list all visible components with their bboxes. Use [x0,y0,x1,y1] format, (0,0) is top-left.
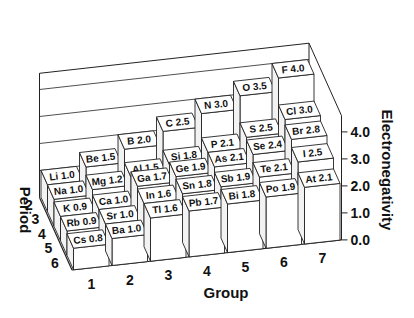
bar-tl: Tl 1.6 [144,200,186,262]
x-tick-label: 5 [241,259,249,275]
y-axis-title: Period [17,187,34,234]
bar-cs: Cs 0.8 [67,230,109,270]
y-tick-label: 6 [51,255,59,271]
x-tick-label: 6 [280,254,288,270]
z-tick-label: 4.0 [351,124,371,140]
z-tick-label: 1.0 [351,205,371,221]
electronegativity-3d-bar-chart: Li 1.0Be 1.5B 2.0C 2.5N 3.0O 3.5F 4.0Na … [0,0,414,318]
bar-bi: Bi 1.8 [221,186,263,253]
bar-pb: Pb 1.7 [183,193,225,257]
bar-at: At 2.1 [298,169,340,244]
z-tick-label: 0.0 [351,232,371,248]
x-tick-label: 2 [126,272,134,288]
bar-po: Po 1.9 [260,179,302,249]
z-axis: 0.01.02.03.04.0 [342,124,371,248]
z-tick-label: 2.0 [351,178,371,194]
x-tick-label: 7 [318,250,326,266]
x-tick-label: 3 [164,267,172,283]
element-label: I 2.5 [302,146,323,159]
z-tick-label: 3.0 [351,151,371,167]
bar-ba: Ba 1.0 [106,220,148,265]
x-tick-label: 4 [203,263,211,279]
x-tick-label: 1 [87,276,95,292]
z-axis-title: Electronegativity [379,110,396,232]
x-axis-title: Group [204,284,249,301]
